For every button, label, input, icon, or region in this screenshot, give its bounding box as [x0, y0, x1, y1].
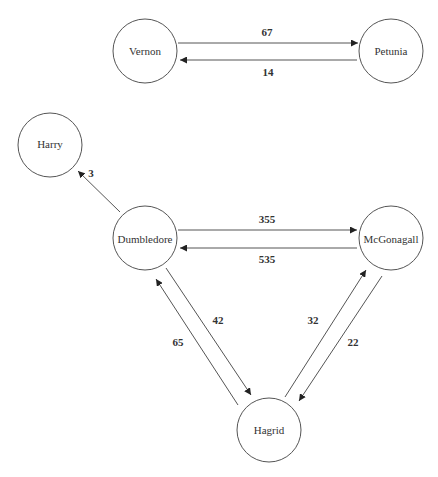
edge-weight-label: 22 [348, 336, 360, 348]
edge-weight-label: 355 [259, 213, 276, 225]
edge-dumbledore-to-mcgonagall: 355 [178, 213, 357, 230]
node-hagrid: Hagrid [237, 398, 301, 462]
node-dumbledore: Dumbledore [113, 206, 177, 270]
node-label: Petunia [375, 45, 408, 57]
node-label: Hagrid [254, 424, 285, 436]
edge-weight-label: 14 [263, 66, 275, 78]
edge-mcgonagall-to-hagrid: 22 [299, 276, 382, 401]
edge-dumbledore-to-harry: 3 [78, 167, 120, 212]
node-harry: Harry [18, 113, 82, 177]
edge-weight-label: 32 [308, 314, 320, 326]
node-label: Vernon [129, 45, 161, 57]
node-label: Harry [37, 138, 63, 150]
edge-weight-label: 3 [88, 167, 94, 179]
edge-weight-label: 535 [259, 253, 276, 265]
node-vernon: Vernon [113, 19, 177, 83]
edge-weight-label: 65 [173, 336, 185, 348]
edge-weight-label: 42 [213, 314, 225, 326]
node-mcgonagall: McGonagall [359, 206, 423, 270]
edge-hagrid-to-mcgonagall: 32 [285, 270, 366, 397]
node-label: Dumbledore [118, 233, 173, 245]
edge-weight-label: 67 [262, 26, 274, 38]
edge-hagrid-to-dumbledore: 65 [156, 279, 238, 405]
edge-vernon-to-petunia: 67 [178, 26, 358, 43]
edge-dumbledore-to-hagrid: 42 [166, 268, 251, 395]
node-petunia: Petunia [359, 19, 423, 83]
directed-graph-canvas: 67 14 3 355 535 42 65 32 22 Vernon Petun… [0, 0, 438, 477]
node-label: McGonagall [364, 233, 419, 245]
edge-petunia-to-vernon: 14 [180, 60, 357, 78]
edge-mcgonagall-to-dumbledore: 535 [180, 248, 357, 265]
